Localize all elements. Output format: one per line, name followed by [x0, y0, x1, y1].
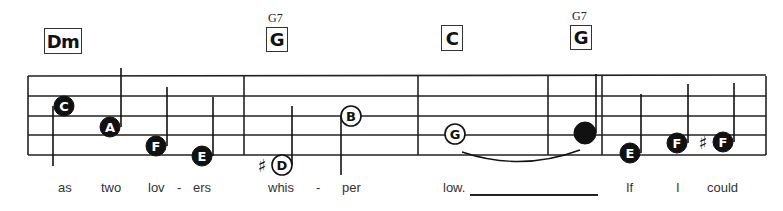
lyric-syllable: could [707, 180, 738, 195]
lyric-syllable: - [316, 180, 320, 195]
chord-symbol-g: G [570, 25, 592, 50]
note-letter: E [626, 146, 635, 161]
lyric-syllable: I [676, 180, 680, 195]
lyric-syllable: two [101, 180, 121, 195]
staff-line [28, 75, 766, 76]
lyric-syllable: - [177, 180, 181, 195]
notehead-g [574, 122, 596, 144]
note-letter: A [105, 120, 115, 135]
chord-symbol-dm: Dm [44, 28, 82, 54]
sharp-icon: ♯ [699, 132, 708, 153]
lyric-extender-line [470, 194, 598, 196]
note-letter: G [450, 127, 461, 142]
note-letter: F [673, 136, 682, 151]
chord-alt-label: G7 [268, 11, 283, 26]
chord-symbol-c: C [441, 25, 463, 51]
note-letter: B [346, 109, 356, 124]
lyric-syllable: low. [443, 180, 465, 195]
lyric-syllable: lov [148, 180, 165, 195]
sharp-icon: ♯ [258, 155, 267, 176]
note-letter: D [277, 158, 288, 173]
lyric-syllable: per [342, 180, 361, 195]
lyric-syllable: If [626, 180, 633, 195]
chord-alt-label: G7 [572, 9, 587, 24]
lyric-syllable: ers [193, 180, 211, 195]
note-letter: F [719, 135, 728, 150]
lyric-syllable: as [58, 180, 72, 195]
note-letter: F [152, 139, 161, 154]
note-letter: C [59, 99, 69, 114]
lyric-syllable: whis [268, 180, 294, 195]
note-letter: E [198, 149, 207, 164]
chord-symbol-g: G [266, 27, 288, 52]
